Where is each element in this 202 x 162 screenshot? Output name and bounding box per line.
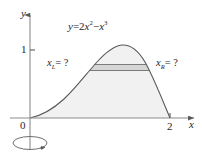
- figure-container: y=2x2−x3 xL= ? xR= ? 1 2 0 y x: [0, 0, 202, 162]
- equation-term2-exponent: 3: [104, 19, 107, 26]
- y-tick-label-1: 1: [21, 44, 27, 55]
- left-boundary-rest: = ?: [55, 57, 68, 68]
- y-axis-label: y: [21, 8, 26, 19]
- right-boundary-label: xR= ?: [156, 58, 178, 71]
- x-axis-label: x: [189, 119, 194, 130]
- curve-equation-label: y=2x2−x3: [68, 20, 107, 32]
- left-boundary-label: xL= ?: [47, 58, 69, 71]
- shaded-region: [30, 45, 170, 118]
- x-tick-label-2: 2: [167, 121, 173, 132]
- origin-label: 0: [20, 120, 26, 131]
- right-boundary-rest: = ?: [165, 57, 178, 68]
- rotation-direction-arrow-icon: [40, 147, 45, 148]
